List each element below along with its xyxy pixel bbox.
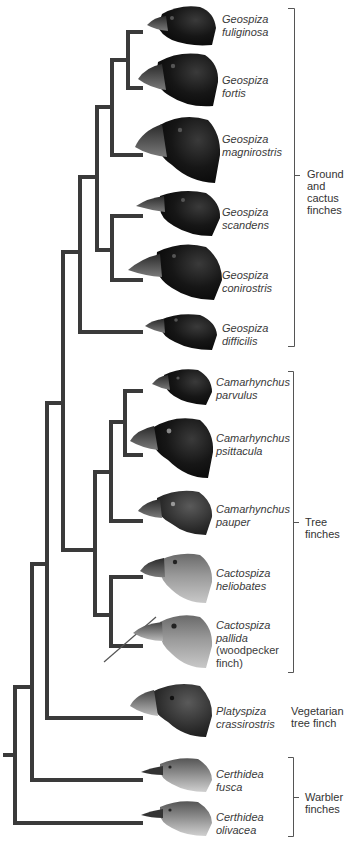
bird-cactospiza-heliobates: [140, 554, 212, 603]
branch-tree-finch-inner: [95, 472, 111, 615]
label-geospiza-fortis: Geospiza fortis: [222, 74, 268, 99]
group-line: Vegetarian: [291, 705, 344, 717]
bird-geospiza-difficilis: [145, 314, 217, 350]
epithet: conirostris: [222, 282, 272, 295]
bird-geospiza-conirostris: [128, 244, 222, 300]
bird-geospiza-fuliginosa: [147, 6, 216, 45]
epithet: fuliginosa: [222, 26, 268, 39]
label-camarhynchus-pauper: Camarhynchus pauper: [216, 503, 290, 528]
genus: Certhidea: [216, 811, 264, 824]
label-geospiza-difficilis: Geospiza difficilis: [222, 322, 268, 347]
bird-geospiza-fortis: [138, 54, 218, 107]
label-camarhynchus-psittacula: Camarhynchus psittacula: [216, 432, 290, 457]
epithet: fortis: [222, 87, 268, 100]
label-geospiza-conirostris: Geospiza conirostris: [222, 269, 272, 294]
tree-branches: [5, 32, 141, 823]
group-line: tree finch: [291, 717, 344, 729]
finch-phylogeny-figure: Geospiza fuliginosa Geospiza fortis Geos…: [0, 0, 358, 854]
label-cactospiza-heliobates: Cactospiza heliobates: [216, 567, 270, 592]
group-line: Tree: [305, 516, 340, 528]
genus: Geospiza: [222, 13, 268, 26]
epithet: olivacea: [216, 824, 264, 837]
branch-ground-inner: [97, 107, 112, 250]
group-line: finches: [307, 204, 344, 216]
genus: Geospiza: [222, 206, 269, 219]
epithet: heliobates: [216, 580, 270, 593]
group-label-tree-finches: Tree finches: [305, 516, 340, 540]
group-line: and: [307, 180, 344, 192]
genus: Geospiza: [222, 322, 268, 335]
epithet: parvulus: [216, 389, 290, 402]
common-name-line2: finch): [216, 657, 279, 670]
epithet: crassirostris: [216, 718, 275, 731]
genus: Platyspiza: [216, 705, 275, 718]
genus: Geospiza: [222, 74, 268, 87]
group-line: finches: [305, 803, 343, 815]
bird-cactospiza-pallida: [104, 615, 212, 668]
branch-cactospiza: [111, 577, 141, 646]
label-platyspiza-crassirostris: Platyspiza crassirostris: [216, 705, 275, 730]
bracket-warbler-finches: [288, 758, 299, 837]
genus: Certhidea: [216, 768, 264, 781]
group-line: Ground: [307, 168, 344, 180]
bird-camarhynchus-psittacula: [130, 418, 213, 478]
bird-camarhynchus-pauper: [138, 491, 212, 535]
group-label-warbler-finches: Warbler finches: [305, 791, 343, 815]
epithet: difficilis: [222, 335, 268, 348]
epithet: pallida: [216, 632, 279, 645]
bird-platyspiza-crassirostris: [130, 684, 212, 737]
genus: Geospiza: [222, 269, 272, 282]
epithet: psittacula: [216, 445, 290, 458]
label-geospiza-fuliginosa: Geospiza fuliginosa: [222, 13, 268, 38]
epithet: magnirostris: [222, 146, 282, 159]
group-line: finches: [305, 528, 340, 540]
genus: Camarhynchus: [216, 376, 290, 389]
group-line: Warbler: [305, 791, 343, 803]
bird-certhidea-fusca: [141, 758, 212, 792]
group-label-ground-cactus: Ground and cactus finches: [307, 168, 344, 216]
genus: Camarhynchus: [216, 503, 290, 516]
genus: Camarhynchus: [216, 432, 290, 445]
epithet: fusca: [216, 781, 264, 794]
label-geospiza-magnirostris: Geospiza magnirostris: [222, 133, 282, 158]
label-cactospiza-pallida: Cactospiza pallida (woodpecker finch): [216, 619, 279, 669]
bracket-ground-cactus: [288, 9, 300, 347]
group-line: cactus: [307, 192, 344, 204]
genus: Geospiza: [222, 133, 282, 146]
common-name-line1: (woodpecker: [216, 644, 279, 657]
branch-ground-stem: [63, 252, 80, 550]
bird-certhidea-olivacea: [141, 801, 212, 836]
epithet: pauper: [216, 516, 290, 529]
epithet: scandens: [222, 219, 269, 232]
genus: Cactospiza: [216, 567, 270, 580]
bird-camarhynchus-parvulus: [152, 369, 212, 405]
branch-parvulus-psittacula: [125, 391, 141, 455]
group-label-vegetarian-tree-finch: Vegetarian tree finch: [291, 705, 344, 729]
bird-geospiza-magnirostris: [135, 117, 220, 183]
label-certhidea-fusca: Certhidea fusca: [216, 768, 264, 793]
genus: Cactospiza: [216, 619, 279, 632]
label-camarhynchus-parvulus: Camarhynchus parvulus: [216, 376, 290, 401]
label-certhidea-olivacea: Certhidea olivacea: [216, 811, 264, 836]
bird-geospiza-scandens: [136, 191, 220, 236]
label-geospiza-scandens: Geospiza scandens: [222, 206, 269, 231]
